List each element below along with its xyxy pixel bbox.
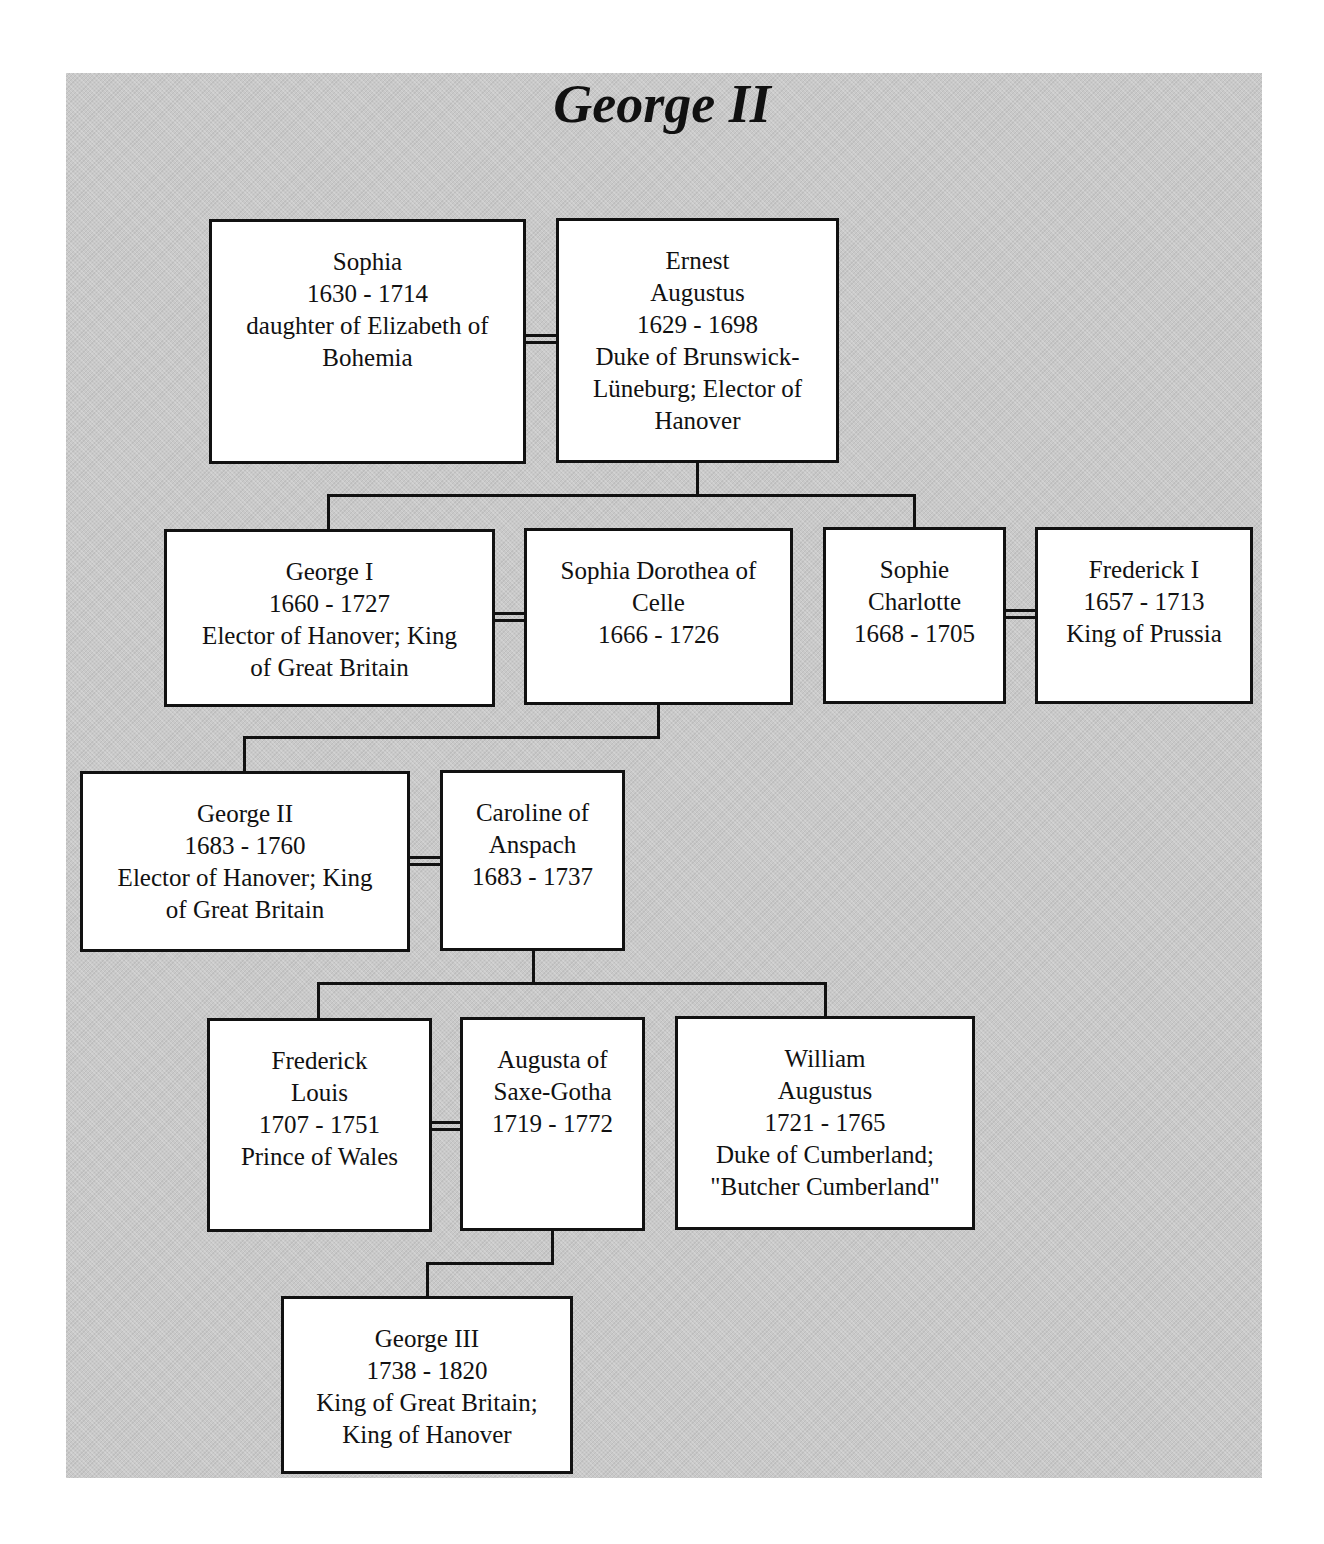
marriage-connector xyxy=(429,1121,463,1131)
person-box-frederick-louis: Frederick Louis 1707 - 1751 Prince of Wa… xyxy=(207,1018,432,1232)
descent-line xyxy=(532,949,535,984)
descent-line xyxy=(317,982,827,985)
marriage-connector xyxy=(492,612,527,622)
descent-line xyxy=(551,1228,554,1264)
person-box-william-augustus: William Augustus 1721 - 1765 Duke of Cum… xyxy=(675,1016,975,1230)
person-box-ernest-augustus: Ernest Augustus 1629 - 1698 Duke of Brun… xyxy=(556,218,839,463)
marriage-connector xyxy=(523,334,559,344)
person-box-caroline: Caroline of Anspach 1683 - 1737 xyxy=(440,770,625,951)
person-box-george-ii: George II 1683 - 1760 Elector of Hanover… xyxy=(80,771,410,952)
diagram-title: George II xyxy=(0,74,1324,134)
person-box-sophia: Sophia 1630 - 1714 daughter of Elizabeth… xyxy=(209,219,526,464)
person-box-sophia-dorothea: Sophia Dorothea of Celle 1666 - 1726 xyxy=(524,528,793,705)
person-box-frederick-i: Frederick I 1657 - 1713 King of Prussia xyxy=(1035,527,1253,704)
descent-line xyxy=(327,494,330,530)
person-box-george-iii: George III 1738 - 1820 King of Great Bri… xyxy=(281,1296,573,1474)
marriage-connector xyxy=(1003,609,1038,619)
person-box-sophie-charlotte: Sophie Charlotte 1668 - 1705 xyxy=(823,527,1006,704)
descent-line xyxy=(243,736,660,739)
person-box-george-i: George I 1660 - 1727 Elector of Hanover;… xyxy=(164,529,495,707)
person-box-augusta: Augusta of Saxe-Gotha 1719 - 1772 xyxy=(460,1017,645,1231)
descent-line xyxy=(317,982,320,1020)
descent-line xyxy=(913,494,916,528)
descent-line xyxy=(243,736,246,773)
marriage-connector xyxy=(407,856,443,866)
descent-line xyxy=(426,1262,429,1298)
descent-line xyxy=(657,703,660,738)
descent-line xyxy=(824,982,827,1018)
cropped-header-text xyxy=(760,0,767,16)
descent-line xyxy=(327,494,916,497)
descent-line xyxy=(696,461,699,496)
descent-line xyxy=(426,1262,554,1265)
